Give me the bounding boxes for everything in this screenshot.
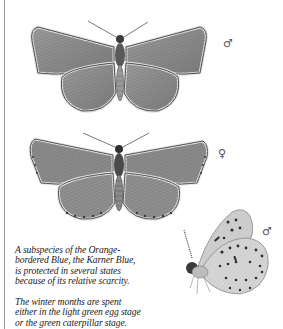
caption-1-line-4: because of its relative scarcity. — [15, 276, 160, 286]
male-underside-symbol: ♂ — [262, 226, 272, 237]
butterfly-plate: ♂ ♀ — [0, 0, 283, 329]
caption-paragraph-2: The winter months are spent either in th… — [15, 297, 160, 328]
caption-paragraph-1: A subspecies of the Orange- bordered Blu… — [15, 245, 160, 287]
butterfly-male-underside-illustration — [170, 208, 275, 303]
butterfly-male-upperside-illustration — [28, 15, 213, 115]
caption-2-line-3: or the green caterpillar stage. — [15, 318, 160, 328]
male-symbol: ♂ — [223, 38, 233, 49]
female-symbol: ♀ — [218, 148, 226, 159]
